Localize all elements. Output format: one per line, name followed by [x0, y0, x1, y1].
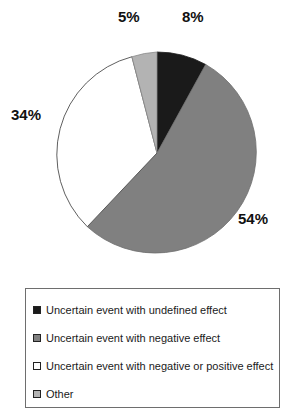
- pie-plot-area: 5% 8% 34% 54%: [0, 0, 296, 285]
- pie-graphic: [0, 0, 296, 285]
- legend-item-other: Other: [33, 380, 279, 408]
- hollow-square-icon: [33, 362, 41, 370]
- data-label-negative-effect: 54%: [238, 211, 268, 226]
- legend-item-undefined-effect: Uncertain event with undefined effect: [33, 296, 279, 324]
- legend-item-negative-or-positive-effect: Uncertain event with negative or positiv…: [33, 352, 279, 380]
- data-label-undefined-effect: 8%: [182, 9, 204, 24]
- pie-chart-figure: 5% 8% 34% 54% Uncertain event with undef…: [0, 0, 296, 418]
- data-label-other: 5%: [118, 9, 140, 24]
- filled-square-icon: [33, 334, 41, 342]
- legend-item-negative-effect: Uncertain event with negative effect: [33, 324, 279, 352]
- legend-item-label: Uncertain event with negative or positiv…: [46, 361, 273, 372]
- legend-item-label: Other: [46, 389, 74, 400]
- legend-item-label: Uncertain event with undefined effect: [46, 305, 227, 316]
- legend-list: Uncertain event with undefined effect Un…: [26, 289, 279, 407]
- chart-legend: Uncertain event with undefined effect Un…: [25, 288, 280, 408]
- filled-square-icon: [33, 390, 41, 398]
- data-label-negative-or-positive-effect: 34%: [11, 107, 41, 122]
- legend-item-label: Uncertain event with negative effect: [46, 333, 220, 344]
- filled-square-icon: [33, 306, 41, 314]
